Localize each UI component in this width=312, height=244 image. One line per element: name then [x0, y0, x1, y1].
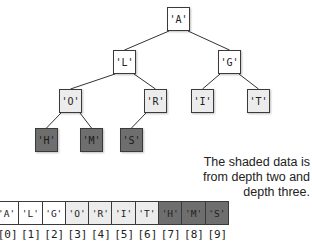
edge-o-m — [80, 113, 92, 128]
array-index-9: [9] — [206, 228, 229, 241]
array-cell-3: 'O' — [65, 202, 88, 224]
array-cell-6: 'T' — [135, 202, 158, 224]
array-cell-1: 'L' — [18, 202, 41, 224]
array-cell-7: 'H' — [158, 202, 181, 224]
array-index-2: [2] — [43, 228, 66, 241]
array-index-0: [0] — [0, 228, 19, 241]
array-index-5: [5] — [112, 228, 135, 241]
array-index-7: [7] — [159, 228, 182, 241]
note-line-3: depth three. — [170, 185, 310, 200]
array-index-6: [6] — [136, 228, 159, 241]
array-indices: [0][1][2][3][4][5][6][7][8][9] — [0, 228, 229, 241]
edge-o-h — [47, 113, 62, 128]
edge-l-r — [134, 74, 156, 89]
array-index-4: [4] — [89, 228, 112, 241]
array-cell-0: 'A' — [0, 202, 18, 224]
edge-a-l — [125, 31, 170, 50]
edge-l-o — [71, 74, 116, 89]
edge-a-g — [188, 31, 230, 50]
array-representation: 'A''L''G''O''R''I''T''H''M''S' — [0, 201, 229, 225]
tree-node-o: 'O' — [59, 89, 82, 113]
array-cell-4: 'R' — [88, 202, 111, 224]
tree-node-g: 'G' — [218, 50, 241, 74]
tree-node-h: 'H' — [35, 128, 58, 152]
edge-g-i — [203, 74, 221, 89]
array-cell-9: 'S' — [205, 202, 228, 224]
note-line-1: The shaded data is — [170, 155, 310, 170]
tree-node-t: 'T' — [247, 89, 270, 113]
array-index-8: [8] — [182, 228, 205, 241]
tree-node-l: 'L' — [113, 50, 136, 74]
array-cell-2: 'G' — [42, 202, 65, 224]
shading-note: The shaded data is from depth two and de… — [170, 155, 310, 200]
array-cell-8: 'M' — [181, 202, 204, 224]
tree-node-m: 'M' — [80, 128, 103, 152]
note-line-2: from depth two and — [170, 170, 310, 185]
edge-g-t — [239, 74, 259, 89]
tree-node-i: 'I' — [191, 89, 214, 113]
array-index-1: [1] — [19, 228, 42, 241]
edge-r-s — [132, 113, 147, 128]
array-cell-5: 'I' — [111, 202, 134, 224]
tree-node-s: 'S' — [120, 128, 143, 152]
tree-node-a: 'A' — [167, 7, 190, 31]
array-index-3: [3] — [66, 228, 89, 241]
tree-node-r: 'R' — [144, 89, 167, 113]
